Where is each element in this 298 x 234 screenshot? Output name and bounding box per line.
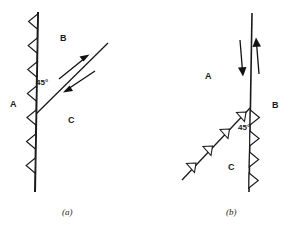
panel-a-group — [26, 12, 108, 192]
block-label-b2: B — [272, 101, 279, 110]
shear-arrow-up-right — [59, 55, 90, 80]
block-label-a2: A — [205, 72, 212, 81]
figure-root: A B C 45° (a) A B C 45° (b) — [0, 0, 298, 234]
fault-tooth — [26, 158, 35, 173]
fault-tooth — [27, 134, 36, 149]
dip-slip-arrow-down — [238, 40, 247, 77]
dip-slip-arrow-up — [253, 38, 262, 75]
fault-tooth — [203, 146, 213, 156]
fault-tooth — [29, 14, 38, 29]
fault-tooth — [250, 131, 260, 146]
fault-tooth — [27, 110, 36, 125]
panel-caption-a: (a) — [62, 208, 73, 217]
fault-tooth — [250, 110, 260, 125]
panel-b-group — [182, 13, 261, 192]
block-label-b1: B — [60, 34, 67, 43]
angle-label-b: 45° — [238, 124, 250, 132]
fault-tooth — [28, 38, 37, 53]
angle-label-a: 45° — [36, 79, 48, 87]
fault-tooth — [249, 152, 259, 167]
fault-tooth — [220, 129, 230, 139]
fault-tooth — [249, 173, 258, 188]
block-label-c1: C — [68, 116, 75, 125]
block-label-c2: C — [228, 163, 235, 172]
panel-caption-b: (b) — [226, 208, 237, 217]
block-label-a1: A — [10, 100, 17, 109]
fault-tooth — [27, 86, 36, 101]
fault-diagram-svg — [0, 0, 298, 234]
fault-tooth — [28, 62, 37, 77]
